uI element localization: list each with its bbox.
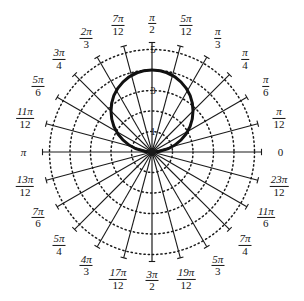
angle-label-23pi-over-12: 23π12 — [270, 174, 289, 198]
angle-label-fraction: 11π12 — [16, 106, 34, 130]
fraction-numerator: 2π — [80, 26, 93, 39]
angle-label-pi-over-4: π4 — [241, 47, 249, 71]
angle-label-5pi-over-3: 5π3 — [211, 254, 224, 278]
polar-chart: 0π12π6π4π35π12π27π122π33π45π611π12π13π12… — [0, 0, 304, 301]
angle-label-pi-over-6: π6 — [262, 74, 270, 98]
angle-label-17pi-over-12: 17π12 — [109, 267, 128, 291]
fraction-numerator: 5π — [52, 233, 65, 246]
angle-label-fraction: 5π12 — [180, 13, 193, 37]
fraction-numerator: 7π — [238, 233, 251, 246]
angle-label-fraction: 3π2 — [145, 268, 158, 292]
fraction-numerator: π — [241, 47, 249, 60]
angle-label-2pi-over-3: 2π3 — [80, 26, 93, 50]
fraction-denominator: 12 — [273, 118, 286, 130]
fraction-denominator: 6 — [32, 87, 45, 99]
fraction-numerator: π — [214, 26, 222, 39]
fraction-numerator: 23π — [270, 174, 289, 187]
fraction-numerator: 7π — [32, 206, 45, 219]
angle-label-fraction: 23π12 — [270, 174, 289, 198]
angle-label-pi-over-12: π12 — [273, 106, 286, 130]
fraction-numerator: 4π — [80, 254, 93, 267]
fraction-numerator: 19π — [177, 267, 196, 280]
angle-label-fraction: 7π6 — [32, 206, 45, 230]
angle-label-fraction: 7π4 — [238, 233, 251, 257]
fraction-denominator: 12 — [109, 280, 128, 292]
fraction-numerator: 11π — [16, 106, 34, 119]
fraction-denominator: 4 — [52, 60, 65, 72]
angle-label-pi-over-2: π2 — [148, 11, 156, 35]
angle-label-fraction: 7π12 — [111, 13, 124, 37]
fraction-denominator: 4 — [52, 245, 65, 257]
angle-label-5pi-over-4: 5π4 — [52, 233, 65, 257]
fraction-denominator: 12 — [111, 25, 124, 37]
angle-label-fraction: 2π3 — [80, 26, 93, 50]
fraction-numerator: 3π — [145, 268, 158, 281]
fraction-numerator: 5π — [180, 13, 193, 26]
fraction-denominator: 2 — [145, 281, 158, 293]
angle-label-text: 0 — [278, 147, 284, 158]
angle-label-fraction: 19π12 — [177, 267, 196, 291]
angle-label-fraction: 5π3 — [211, 254, 224, 278]
angle-label-5pi-over-12: 5π12 — [180, 13, 193, 37]
fraction-numerator: 5π — [211, 254, 224, 267]
fraction-numerator: 13π — [16, 174, 35, 187]
angle-label-fraction: π4 — [241, 47, 249, 71]
fraction-numerator: 11π — [257, 206, 275, 219]
fraction-denominator: 12 — [270, 187, 289, 199]
fraction-numerator: 7π — [111, 13, 124, 26]
angle-label-fraction: π6 — [262, 74, 270, 98]
fraction-numerator: 17π — [109, 267, 128, 280]
radial-tick-label-5: 5 — [150, 43, 156, 55]
angle-label-3pi-over-4: 3π4 — [52, 47, 65, 71]
angle-label-5pi-over-6: 5π6 — [32, 74, 45, 98]
angle-label-fraction: 3π4 — [52, 47, 65, 71]
fraction-denominator: 3 — [214, 39, 222, 51]
angle-label-11pi-over-6: 11π6 — [257, 206, 275, 230]
angle-label-fraction: 17π12 — [109, 267, 128, 291]
angle-label-fraction: 5π6 — [32, 74, 45, 98]
angle-label-pi-over-3: π3 — [214, 26, 222, 50]
fraction-numerator: 3π — [52, 47, 65, 60]
angle-label-fraction: π3 — [214, 26, 222, 50]
fraction-denominator: 6 — [262, 87, 270, 99]
angle-label-fraction: π12 — [273, 106, 286, 130]
fraction-denominator: 12 — [177, 280, 196, 292]
fraction-denominator: 3 — [80, 39, 93, 51]
fraction-denominator: 3 — [80, 266, 93, 278]
radial-tick-label-1: 1 — [150, 125, 156, 137]
fraction-numerator: 5π — [32, 74, 45, 87]
fraction-denominator: 12 — [16, 118, 34, 130]
angle-label-pi: π — [21, 146, 27, 158]
angle-label-text: π — [21, 147, 27, 158]
fraction-denominator: 12 — [16, 187, 35, 199]
fraction-denominator: 2 — [148, 24, 156, 36]
fraction-denominator: 6 — [257, 218, 275, 230]
angle-label-7pi-over-12: 7π12 — [111, 13, 124, 37]
angle-label-7pi-over-6: 7π6 — [32, 206, 45, 230]
angle-label-11pi-over-12: 11π12 — [16, 106, 34, 130]
angle-label-fraction: 5π4 — [52, 233, 65, 257]
angle-label-fraction: 11π6 — [257, 206, 275, 230]
fraction-denominator: 12 — [180, 25, 193, 37]
angle-label-fraction: π2 — [148, 11, 156, 35]
fraction-numerator: π — [273, 106, 286, 119]
angle-label-4pi-over-3: 4π3 — [80, 254, 93, 278]
fraction-numerator: π — [148, 11, 156, 24]
angle-label-19pi-over-12: 19π12 — [177, 267, 196, 291]
fraction-numerator: π — [262, 74, 270, 87]
angle-label-fraction: 13π12 — [16, 174, 35, 198]
angle-label-7pi-over-4: 7π4 — [238, 233, 251, 257]
angle-label-0: 0 — [278, 146, 284, 158]
fraction-denominator: 4 — [241, 60, 249, 72]
angle-label-3pi-over-2: 3π2 — [145, 268, 158, 292]
fraction-denominator: 4 — [238, 245, 251, 257]
fraction-denominator: 6 — [32, 218, 45, 230]
angle-label-fraction: 4π3 — [80, 254, 93, 278]
angle-label-13pi-over-12: 13π12 — [16, 174, 35, 198]
fraction-denominator: 3 — [211, 266, 224, 278]
radial-tick-label-3: 3 — [150, 84, 156, 96]
